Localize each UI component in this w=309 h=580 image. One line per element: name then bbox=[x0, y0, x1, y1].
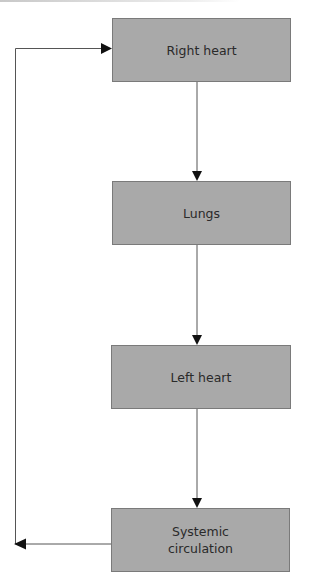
arrowhead-right-icon bbox=[101, 43, 112, 54]
node-right-heart: Right heart bbox=[112, 18, 291, 82]
node-left-heart: Left heart bbox=[111, 345, 291, 409]
connectors bbox=[0, 0, 309, 580]
node-label-line2: circulation bbox=[168, 540, 233, 557]
node-systemic-circulation: Systemic circulation bbox=[111, 508, 290, 572]
node-label: Lungs bbox=[183, 205, 220, 222]
node-lungs: Lungs bbox=[112, 181, 291, 245]
node-label-line1: Systemic bbox=[172, 523, 229, 540]
node-label: Left heart bbox=[171, 369, 232, 386]
node-label: Right heart bbox=[166, 42, 236, 59]
edge-systemic-to-right-heart bbox=[16, 49, 112, 545]
arrowhead-down-icon bbox=[192, 171, 202, 181]
arrowhead-down-icon bbox=[192, 335, 202, 345]
arrowhead-down-icon bbox=[192, 498, 202, 508]
